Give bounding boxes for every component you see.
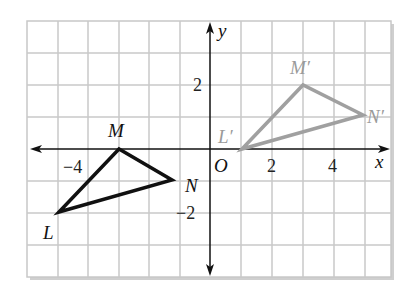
- x-axis-label: x: [374, 151, 384, 172]
- vertex-label-n: N: [184, 175, 199, 196]
- y-axis-label: y: [216, 20, 227, 41]
- vertex-label-m-prime: M′: [289, 57, 311, 78]
- origin-label: O: [214, 155, 228, 176]
- vertex-label-l: L: [42, 222, 54, 243]
- x-tick-4: 4: [328, 156, 337, 176]
- vertex-label-n-prime: N′: [366, 106, 385, 127]
- y-tick-neg2: −2: [176, 203, 195, 223]
- x-tick-neg4: −4: [63, 157, 82, 177]
- vertex-label-l-prime: L′: [217, 126, 234, 147]
- vertex-label-m: M: [107, 120, 125, 141]
- y-tick-2: 2: [193, 75, 202, 95]
- coordinate-plane: y x O −4 2 4 2 −2 M L N M′ L′ N′: [0, 0, 414, 294]
- x-tick-2: 2: [267, 156, 276, 176]
